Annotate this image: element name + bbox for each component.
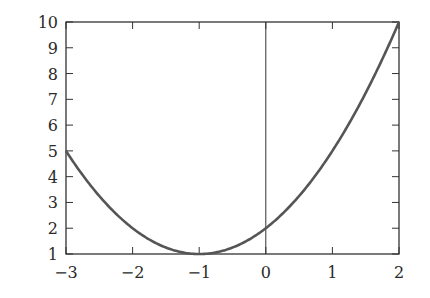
y-tick-label: 5 xyxy=(48,142,58,161)
x-tick-label: −2 xyxy=(121,263,145,282)
y-tick-label: 9 xyxy=(48,39,58,58)
function-curve xyxy=(66,22,399,254)
x-tick-label: 1 xyxy=(327,263,337,282)
y-tick-label: 1 xyxy=(48,245,58,264)
x-tick-label: −1 xyxy=(187,263,211,282)
y-tick-label: 7 xyxy=(48,90,58,109)
plot-frame xyxy=(66,22,399,254)
y-tick-label: 10 xyxy=(38,13,58,32)
x-tick-label: 0 xyxy=(261,263,271,282)
y-tick-label: 2 xyxy=(48,219,58,238)
y-tick-label: 4 xyxy=(48,168,58,187)
y-axis-tick-labels: 12345678910 xyxy=(38,13,58,264)
x-tick-label: 2 xyxy=(394,263,404,282)
chart: −3−2−1012 12345678910 xyxy=(0,0,430,298)
y-tick-label: 3 xyxy=(48,193,58,212)
x-tick-label: −3 xyxy=(54,263,78,282)
x-axis-tick-labels: −3−2−1012 xyxy=(54,263,404,282)
plot-area xyxy=(66,22,399,254)
y-tick-label: 6 xyxy=(48,116,58,135)
y-tick-label: 8 xyxy=(48,65,58,84)
